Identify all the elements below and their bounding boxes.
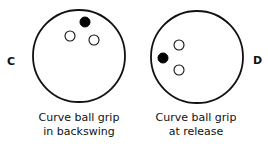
ball-d-finger-hole-1	[174, 40, 184, 50]
caption-d-line-2: at release	[141, 125, 251, 139]
ball-c-finger-hole-2	[89, 35, 99, 45]
caption-c: Curve ball grip in backswing	[24, 111, 134, 139]
caption-d-line-1: Curve ball grip	[141, 111, 251, 125]
ball-c	[33, 10, 125, 102]
label-d: D	[253, 55, 262, 66]
ball-d	[151, 11, 243, 103]
label-c: C	[7, 56, 15, 67]
ball-c-thumb-hole	[80, 17, 90, 27]
ball-c-finger-hole-1	[65, 31, 75, 41]
ball-c-outline	[33, 10, 125, 102]
ball-d-thumb-hole	[158, 53, 168, 63]
bowling-grip-diagram: C D Curve ball grip in backswing Curve b…	[0, 0, 268, 150]
ball-d-finger-hole-2	[174, 65, 184, 75]
caption-c-line-1: Curve ball grip	[24, 111, 134, 125]
caption-c-line-2: in backswing	[24, 125, 134, 139]
caption-d: Curve ball grip at release	[141, 111, 251, 139]
